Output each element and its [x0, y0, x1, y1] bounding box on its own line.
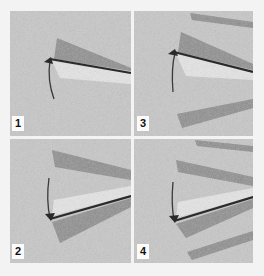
- panel-label-2: 2: [12, 244, 24, 259]
- panel-label-4: 4: [137, 244, 149, 259]
- figure-four-panel-diagram: [0, 0, 264, 276]
- panel-label-1: 1: [12, 116, 24, 131]
- panel-4: [134, 139, 253, 263]
- panel-label-3: 3: [137, 116, 149, 131]
- panel-3: [134, 11, 253, 136]
- panel-2: [10, 139, 131, 263]
- panels-layer: [10, 11, 253, 263]
- panel-1: [10, 11, 131, 136]
